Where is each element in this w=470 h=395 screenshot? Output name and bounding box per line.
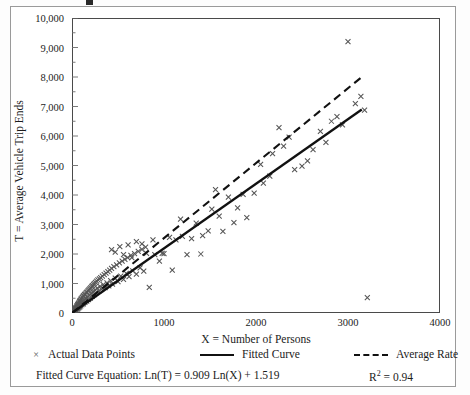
x-tick-label: 3000 <box>338 317 359 328</box>
legend-label-fitted-curve: Fitted Curve <box>242 348 300 360</box>
legend-item-average-rate: Average Rate <box>354 348 458 360</box>
legend-item-fitted-curve: Fitted Curve <box>200 348 300 360</box>
plot-area-wrapper <box>72 18 440 313</box>
legend-label-actual-data-points: Actual Data Points <box>48 348 135 360</box>
x-tick-label: 1000 <box>154 317 175 328</box>
legend: × Actual Data Points Fitted Curve Averag… <box>14 348 452 364</box>
fitted-curve-equation: Fitted Curve Equation: Ln(T) = 0.909 Ln(… <box>36 369 280 381</box>
r2-number: = 0.94 <box>381 371 413 383</box>
cross-marker-icon: × <box>30 349 42 360</box>
x-tick-label: 0 <box>69 317 74 328</box>
x-tick-label: 4000 <box>430 317 451 328</box>
average-rate-line <box>72 77 362 313</box>
x-axis-title: X = Number of Persons <box>72 333 440 345</box>
r2-prefix: R <box>369 371 377 383</box>
legend-label-average-rate: Average Rate <box>396 348 458 360</box>
fitted-curve-line <box>72 109 362 313</box>
y-axis-title: T = Average Vehicle Trip Ends <box>13 46 25 296</box>
x-tick-label: 2000 <box>246 317 267 328</box>
r-squared-value: R2 = 0.94 <box>369 369 413 383</box>
solid-line-swatch-icon <box>200 354 234 356</box>
dashed-line-swatch-icon <box>354 354 388 356</box>
notes-row: Fitted Curve Equation: Ln(T) = 0.909 Ln(… <box>14 369 452 385</box>
legend-item-actual-data-points: × Actual Data Points <box>30 348 135 360</box>
scatter-points-layer <box>72 39 370 313</box>
chart-canvas <box>72 18 440 313</box>
figure-container: 10,000 9,000 8,000 7,000 6,000 5,000 4,0… <box>0 0 470 395</box>
